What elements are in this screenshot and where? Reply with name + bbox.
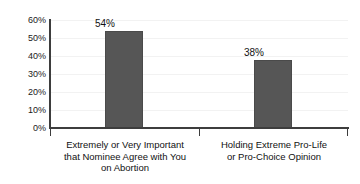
y-axis-line	[49, 19, 51, 129]
y-axis-labels: 60% 50% 40% 30% 20% 10% 0%	[0, 0, 46, 184]
y-tick-label: 10%	[2, 106, 46, 115]
gridline	[49, 38, 348, 39]
y-tick-label: 20%	[2, 88, 46, 97]
x-category-label: Extremely or Very Important that Nominee…	[52, 139, 198, 174]
y-tick-label: 30%	[2, 70, 46, 79]
bar-series-item	[105, 31, 143, 128]
x-axis-tick	[50, 129, 51, 136]
x-category-label-line: that Nominee Agree with You	[52, 151, 198, 163]
x-category-label: Holding Extreme Pro-Life or Pro-Choice O…	[201, 139, 347, 162]
x-axis-tick	[199, 129, 200, 136]
gridline	[49, 92, 348, 93]
x-axis-tick	[347, 129, 348, 136]
gridline	[49, 110, 348, 111]
y-tick-label: 50%	[2, 34, 46, 43]
x-category-label-line: Extremely or Very Important	[52, 139, 198, 151]
gridline	[49, 56, 348, 57]
bar-value-label: 54%	[86, 19, 124, 29]
x-category-label-line: or Pro-Choice Opinion	[201, 151, 347, 163]
bar-series-item	[254, 60, 292, 128]
plot-area	[49, 20, 348, 128]
x-category-label-line: on Abortion	[52, 162, 198, 174]
y-tick-label: 60%	[2, 16, 46, 25]
bar-value-label: 38%	[235, 48, 273, 58]
y-tick-label: 40%	[2, 52, 46, 61]
x-category-label-line: Holding Extreme Pro-Life	[201, 139, 347, 151]
gridline	[49, 74, 348, 75]
bar-chart: 60% 50% 40% 30% 20% 10% 0% 54% 38% Extre…	[0, 0, 360, 184]
y-tick-label: 0%	[2, 124, 46, 133]
